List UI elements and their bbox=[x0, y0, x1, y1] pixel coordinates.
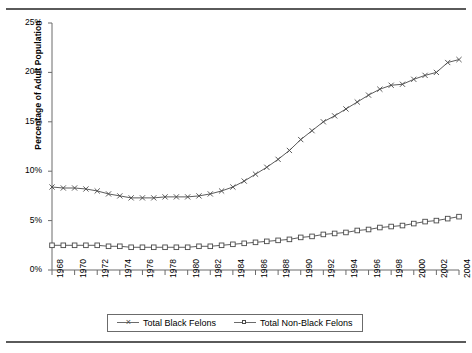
chart-legend: × Total Black Felons Total Non-Black Fel… bbox=[107, 314, 363, 332]
x-axis-tick-label: 1994 bbox=[350, 259, 359, 278]
x-axis-tick-label: 1972 bbox=[101, 259, 110, 278]
x-axis-tick-label: 1990 bbox=[305, 259, 314, 278]
x-axis-tick-label: 2002 bbox=[440, 259, 449, 278]
x-axis-tick-label: 1976 bbox=[146, 259, 155, 278]
legend-marker-x-icon: × bbox=[117, 318, 139, 327]
x-axis-tick-label: 2004 bbox=[463, 259, 472, 278]
x-axis-tick-label: 1988 bbox=[282, 259, 291, 278]
x-axis-tick-label: 1974 bbox=[124, 259, 133, 278]
x-axis-tick-label: 1984 bbox=[237, 259, 246, 278]
x-axis-tick-label: 1996 bbox=[373, 259, 382, 278]
x-axis-tick-label: 2000 bbox=[418, 259, 427, 278]
legend-marker-square-icon bbox=[234, 318, 256, 327]
x-axis-tick-labels: 1968197019721974197619781980198219841986… bbox=[0, 0, 472, 353]
x-axis-tick-label: 1986 bbox=[260, 259, 269, 278]
x-axis-tick-label: 1998 bbox=[395, 259, 404, 278]
x-axis-tick-label: 1992 bbox=[327, 259, 336, 278]
x-axis-tick-label: 1982 bbox=[214, 259, 223, 278]
x-axis-tick-label: 1980 bbox=[192, 259, 201, 278]
x-axis-tick-label: 1978 bbox=[169, 259, 178, 278]
legend-label: Total Non-Black Felons bbox=[260, 318, 353, 328]
legend-entry-non-black-felons: Total Non-Black Felons bbox=[234, 318, 353, 328]
chart-figure: Percentage of Adult Population 0%5%10%15… bbox=[0, 0, 472, 353]
legend-label: Total Black Felons bbox=[143, 318, 216, 328]
legend-entry-black-felons: × Total Black Felons bbox=[117, 318, 216, 328]
x-axis-tick-label: 1968 bbox=[56, 259, 65, 278]
x-axis-tick-label: 1970 bbox=[79, 259, 88, 278]
